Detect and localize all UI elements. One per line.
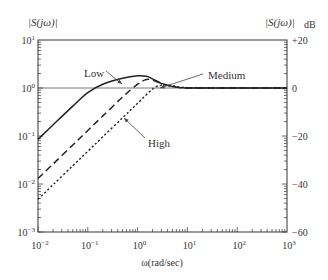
annotation-low: Low (84, 67, 104, 79)
x-tick-label: 102 (232, 239, 246, 251)
left-axis-title: |S(jω)| (28, 16, 58, 29)
x-tick-label: 10−2 (31, 239, 49, 251)
right-axis-unit: dB (304, 19, 316, 30)
sensitivity-chart: 10−310−210−1100101−60−40−200+2010−210−11… (0, 0, 328, 280)
curve-medium (38, 79, 287, 178)
x-tick-label: 101 (183, 239, 197, 251)
x-tick-label: 10−1 (81, 239, 99, 251)
curve-low (38, 76, 287, 140)
annotation-medium: Medium (208, 69, 246, 81)
y-tick-label-right: 0 (292, 83, 297, 94)
x-tick-label: 103 (282, 239, 296, 251)
annotations: LowMediumHigh (84, 67, 246, 149)
plot-frame (38, 40, 287, 232)
y-tick-label-right: −60 (292, 227, 308, 238)
x-axis-title: ω(rad/sec) (141, 257, 183, 269)
right-axis-title: |S(jω)| (265, 16, 295, 29)
annotation-high: High (148, 137, 171, 149)
y-tick-label-right: −20 (292, 131, 308, 142)
y-tick-label-left: 101 (22, 34, 36, 46)
y-tick-label-left: 100 (22, 82, 36, 94)
y-tick-label-right: −40 (292, 179, 308, 190)
x-tick-label: 100 (133, 239, 147, 251)
y-tick-label-left: 10−2 (18, 178, 36, 190)
y-tick-label-left: 10−1 (18, 130, 36, 142)
y-tick-label-left: 10−3 (18, 226, 36, 238)
y-tick-label-right: +20 (292, 35, 308, 46)
arrow-medium (160, 74, 203, 88)
